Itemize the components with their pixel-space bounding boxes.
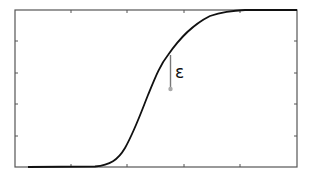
sigmoid-chart: ε (0, 0, 310, 179)
plot-frame (15, 10, 297, 167)
data-point (168, 87, 172, 91)
x-ticks (71, 10, 240, 167)
sigmoid-curve (28, 10, 297, 167)
epsilon-label: ε (175, 62, 184, 82)
y-ticks (15, 41, 297, 136)
